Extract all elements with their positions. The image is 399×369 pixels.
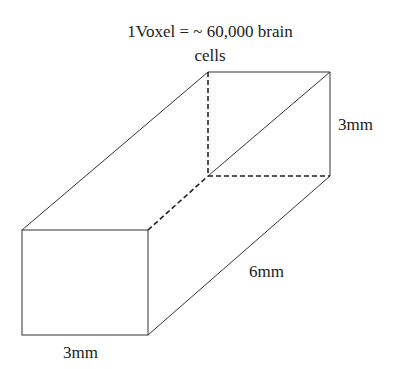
height-label: 3mm <box>338 115 373 135</box>
hidden-top-right-edge <box>148 176 208 230</box>
title-line-1: 1Voxel = ~ 60,000 brain <box>80 20 340 44</box>
title-line-2: cells <box>80 44 340 68</box>
bottom-right-edge <box>148 176 330 335</box>
front-face <box>22 230 148 335</box>
diagram-title: 1Voxel = ~ 60,000 brain cells <box>80 20 340 68</box>
width-label: 3mm <box>63 343 98 363</box>
top-left-edge <box>22 72 208 230</box>
depth-label: 6mm <box>249 262 284 282</box>
back-face-diagonal <box>208 72 330 176</box>
